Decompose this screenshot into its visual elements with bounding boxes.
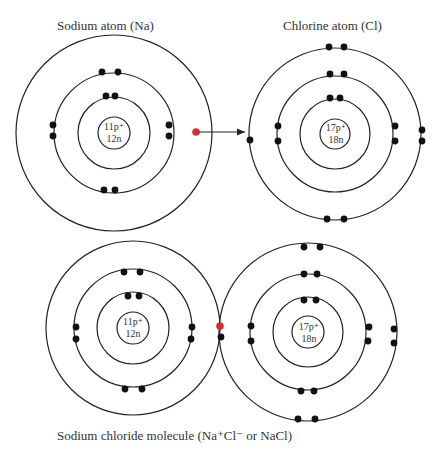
chloride-ion-shell-1 bbox=[273, 297, 343, 367]
chlorine-nucleus-protons: 17p⁺ bbox=[326, 122, 346, 133]
chlorine-nucleus-neutrons: 18n bbox=[329, 134, 344, 145]
sodium-nucleus-neutrons: 12n bbox=[107, 133, 122, 144]
sodium-ion-protons: 11p⁺ bbox=[123, 316, 143, 327]
sodium-ion-neutrons: 12n bbox=[126, 328, 141, 339]
atom-diagram: 11p⁺ 12n 17p⁺ 18n 11p⁺ 12n bbox=[0, 0, 446, 450]
transferred-electron bbox=[192, 128, 200, 136]
chlorine-electrons bbox=[247, 44, 426, 223]
chloride-ion-neutrons: 18n bbox=[302, 333, 317, 344]
chloride-ion bbox=[219, 243, 397, 421]
chloride-ion-protons: 17p⁺ bbox=[299, 321, 319, 332]
shared-transferred-electron bbox=[216, 322, 224, 330]
sodium-nucleus-protons: 11p⁺ bbox=[104, 121, 124, 132]
chloride-ion-shell-2 bbox=[250, 274, 366, 390]
chloride-ion-shell-3 bbox=[219, 243, 397, 421]
